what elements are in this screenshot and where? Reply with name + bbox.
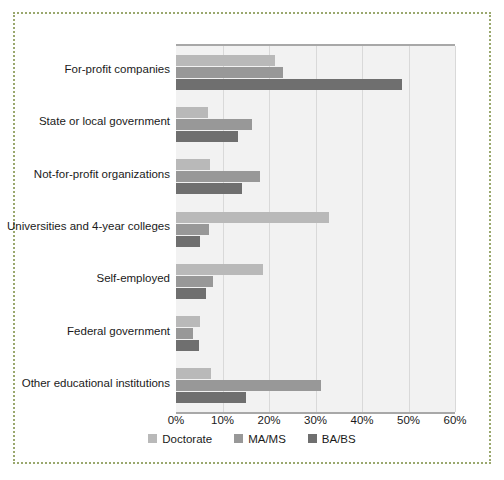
bar <box>176 212 329 223</box>
bar <box>176 171 260 182</box>
bar <box>176 131 238 142</box>
bar-group <box>176 368 455 403</box>
legend-label: Doctorate <box>162 433 212 445</box>
bar <box>176 380 321 391</box>
legend-item: Doctorate <box>148 432 212 445</box>
bar-group <box>176 316 455 351</box>
bar <box>176 288 206 299</box>
bar <box>176 276 213 287</box>
x-axis-tick-label: 40% <box>350 414 373 426</box>
bar <box>176 55 275 66</box>
x-axis-tick-label: 0% <box>168 414 185 426</box>
y-axis-label: Not-for-profit organizations <box>0 168 170 180</box>
bar <box>176 236 200 247</box>
x-axis-tick-label: 30% <box>304 414 327 426</box>
bar-group <box>176 264 455 299</box>
bar <box>176 392 246 403</box>
gridline <box>455 46 456 412</box>
legend-item: MA/MS <box>234 432 286 445</box>
bar <box>176 107 208 118</box>
legend: DoctorateMA/MSBA/BS <box>0 432 504 445</box>
y-axis-label: For-profit companies <box>0 63 170 75</box>
plot-area <box>176 44 455 412</box>
x-axis-tick-label: 60% <box>443 414 466 426</box>
legend-item: BA/BS <box>308 432 356 445</box>
bar-group <box>176 212 455 247</box>
bar <box>176 224 209 235</box>
bar <box>176 368 211 379</box>
y-axis-label: Federal government <box>0 325 170 337</box>
bar <box>176 67 283 78</box>
legend-swatch <box>234 434 243 443</box>
x-axis-tick-label: 20% <box>257 414 280 426</box>
bar <box>176 79 402 90</box>
bar <box>176 264 263 275</box>
bar-group <box>176 107 455 142</box>
x-axis-tick-label: 10% <box>211 414 234 426</box>
bar-group <box>176 159 455 194</box>
bar <box>176 119 252 130</box>
x-axis-tick-label: 50% <box>397 414 420 426</box>
legend-label: BA/BS <box>322 433 356 445</box>
y-axis-label: Universities and 4-year colleges <box>0 220 170 232</box>
bar <box>176 316 200 327</box>
legend-swatch <box>148 434 157 443</box>
y-axis-label: State or local government <box>0 115 170 127</box>
y-axis-label: Other educational institutions <box>0 377 170 389</box>
y-axis-labels: For-profit companiesState or local gover… <box>0 44 170 410</box>
bar <box>176 183 242 194</box>
bar <box>176 328 193 339</box>
bar-chart: For-profit companiesState or local gover… <box>0 0 504 480</box>
bar-group <box>176 55 455 90</box>
bar <box>176 340 199 351</box>
legend-swatch <box>308 434 317 443</box>
y-axis-label: Self-employed <box>0 272 170 284</box>
bar <box>176 159 210 170</box>
figure: For-profit companiesState or local gover… <box>0 0 504 480</box>
legend-label: MA/MS <box>248 433 286 445</box>
